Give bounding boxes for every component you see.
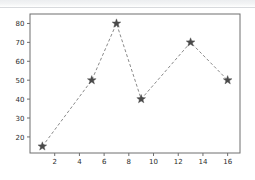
x-axis-tick-labels: 246810121416 <box>52 158 232 166</box>
y-tick-label: 40 <box>16 96 25 104</box>
x-tick-label: 4 <box>77 158 82 166</box>
plot-area-background <box>30 14 240 153</box>
y-tick-label: 50 <box>16 77 25 85</box>
figure-canvas: 20304050607080 246810121416 <box>0 0 255 180</box>
x-tick-label: 12 <box>174 158 183 166</box>
x-tick-label: 6 <box>102 158 107 166</box>
y-tick-label: 80 <box>16 20 25 28</box>
y-tick-label: 30 <box>16 115 25 123</box>
x-tick-label: 14 <box>198 158 207 166</box>
x-tick-label: 16 <box>223 158 232 166</box>
y-tick-label: 20 <box>16 134 25 142</box>
y-tick-label: 70 <box>16 39 25 47</box>
line-chart: 20304050607080 246810121416 <box>0 0 255 180</box>
x-tick-label: 8 <box>127 158 131 166</box>
y-tick-label: 60 <box>16 58 25 66</box>
x-tick-label: 10 <box>149 158 158 166</box>
x-tick-label: 2 <box>52 158 56 166</box>
y-axis-tick-labels: 20304050607080 <box>16 20 25 141</box>
